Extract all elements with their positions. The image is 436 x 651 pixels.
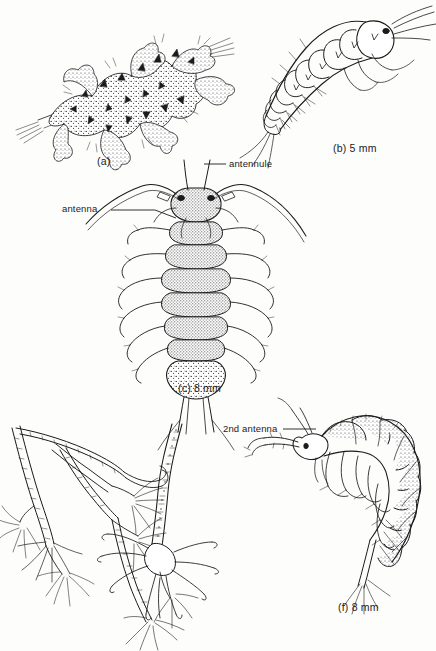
figure-plate: antennule antenna 2nd antenna (a) (b) 5 … xyxy=(0,0,436,651)
caption-panel-f: (f) 8 mm xyxy=(338,601,379,613)
caption-panel-a: (a) xyxy=(97,155,110,167)
antenna-leader-hook xyxy=(155,210,176,218)
label-antennule: antennule xyxy=(229,158,272,169)
caption-panel-c: (c) 8 mm xyxy=(178,382,221,394)
label-second-antenna: 2nd antenna xyxy=(223,423,277,434)
label-antenna: antenna xyxy=(62,203,97,214)
label-leader-lines xyxy=(0,0,436,651)
caption-panel-b: (b) 5 mm xyxy=(333,142,377,154)
